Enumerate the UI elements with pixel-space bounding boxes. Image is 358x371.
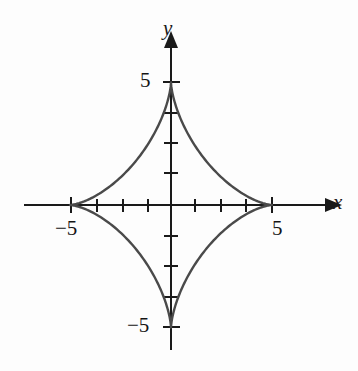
x-tick-label-positive-five: 5 <box>272 218 283 239</box>
y-axis-label: y <box>163 18 172 39</box>
coordinate-plane <box>0 0 358 371</box>
y-tick-label-positive-five: 5 <box>140 70 151 91</box>
graph-figure: y x 5 −5 5 −5 <box>0 0 358 371</box>
x-axis-label: x <box>333 192 342 213</box>
y-tick-label-negative-five: −5 <box>127 315 149 336</box>
x-tick-label-negative-five: −5 <box>55 218 77 239</box>
